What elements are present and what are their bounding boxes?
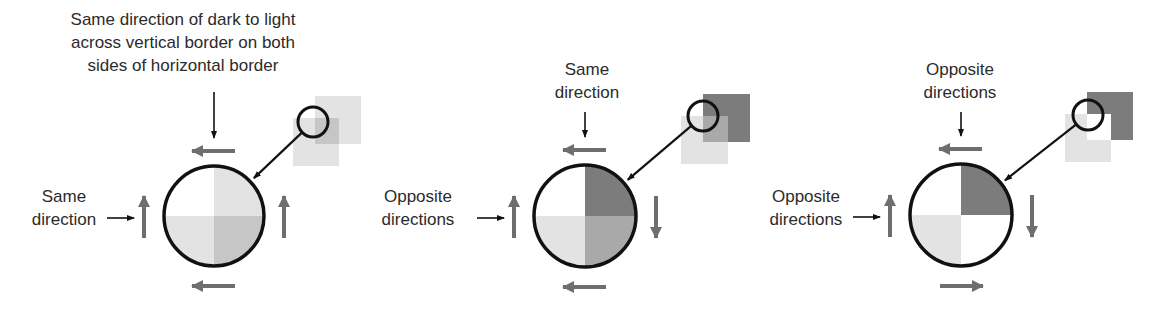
panel-3 xyxy=(853,92,1133,286)
diagram-graphics xyxy=(0,0,1159,310)
diagram-stage: Same direction of dark to light across v… xyxy=(0,0,1159,310)
panel-1 xyxy=(107,92,361,286)
panel-2 xyxy=(477,94,750,287)
